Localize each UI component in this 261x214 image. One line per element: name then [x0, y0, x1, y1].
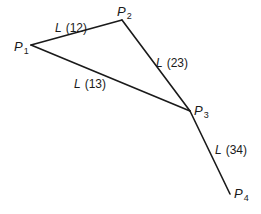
point-label-p4: P4 [234, 188, 249, 201]
segment-label-l34: L(34) [215, 144, 247, 156]
segment-index: (12) [66, 21, 87, 35]
segment-label-l23: L(23) [156, 57, 188, 69]
segment-index: (34) [226, 143, 247, 157]
point-label-p2: P2 [117, 6, 132, 19]
point-subscript: 3 [204, 110, 209, 120]
point-letter: P [234, 186, 243, 201]
point-subscript: 4 [244, 193, 249, 203]
point-label-p1: P1 [14, 41, 29, 54]
segment-letter: L [74, 77, 81, 91]
point-subscript: 2 [127, 11, 132, 21]
segment-label-l12: L(12) [55, 22, 87, 34]
point-subscript: 1 [24, 46, 29, 56]
point-letter: P [194, 103, 203, 118]
segment-letter: L [55, 21, 62, 35]
point-letter: P [14, 39, 23, 54]
segment-letter: L [215, 143, 222, 157]
segment-index: (13) [85, 77, 106, 91]
link-diagram [0, 0, 261, 214]
segment-index: (23) [167, 56, 188, 70]
point-letter: P [117, 4, 126, 19]
segment-label-l13: L(13) [74, 78, 106, 90]
segment-letter: L [156, 56, 163, 70]
point-label-p3: P3 [194, 105, 209, 118]
